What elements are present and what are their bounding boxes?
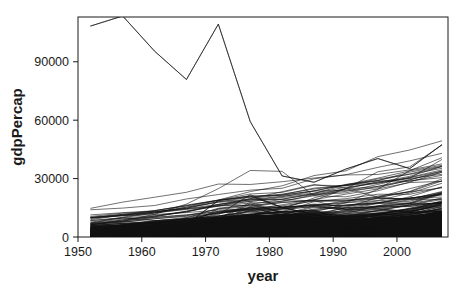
y-axis-tick-label: 90000 xyxy=(34,55,69,69)
y-axis-title: gdpPercap xyxy=(8,88,25,166)
y-axis-tick-label: 60000 xyxy=(34,114,69,128)
x-axis-tick-label: 1990 xyxy=(319,245,347,259)
x-axis-tick-label: 2000 xyxy=(383,245,411,259)
x-axis-tick-label: 1970 xyxy=(192,245,220,259)
x-axis-tick-label: 1980 xyxy=(255,245,283,259)
chart-canvas: 0300006000090000 19501960197019801990200… xyxy=(0,0,467,287)
x-axis-tick-label: 1960 xyxy=(128,245,156,259)
x-axis-tick-label: 1950 xyxy=(64,245,92,259)
y-axis-tick-label: 0 xyxy=(62,231,69,245)
x-axis-title: year xyxy=(248,267,279,284)
chart-background xyxy=(0,0,467,287)
y-axis-tick-label: 30000 xyxy=(34,172,69,186)
gdp-per-capita-line-chart: 0300006000090000 19501960197019801990200… xyxy=(0,0,467,287)
